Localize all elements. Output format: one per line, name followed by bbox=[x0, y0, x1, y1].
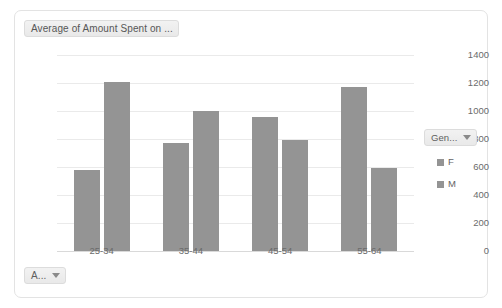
x-axis-tick-label: 25-34 bbox=[57, 245, 146, 256]
legend-field-button[interactable]: Gen... bbox=[424, 129, 477, 146]
x-axis-tick-label: 55-64 bbox=[325, 245, 414, 256]
bar-45-54-F[interactable] bbox=[252, 117, 278, 251]
legend-field-label: Gen... bbox=[431, 132, 457, 144]
value-field-button[interactable]: Average of Amount Spent on ... bbox=[24, 20, 179, 37]
bar-55-64-M[interactable] bbox=[371, 168, 397, 251]
plot-area: 020040060080010001200140025-3435-4445-54… bbox=[15, 11, 489, 299]
y-axis-tick-label: 200 bbox=[457, 218, 489, 228]
bar-45-54-M[interactable] bbox=[282, 140, 308, 251]
axis-field-button[interactable]: A... bbox=[24, 267, 66, 284]
legend-item-M[interactable]: M bbox=[437, 179, 456, 189]
axis-field-label: A... bbox=[31, 270, 46, 282]
y-axis-tick-label: 1000 bbox=[457, 106, 489, 116]
legend-swatch-icon bbox=[437, 159, 444, 166]
y-axis-tick-label: 600 bbox=[457, 162, 489, 172]
x-axis-tick-label: 45-54 bbox=[236, 245, 325, 256]
legend-label: F bbox=[448, 157, 454, 167]
gridline bbox=[57, 55, 414, 56]
y-axis-tick-label: 400 bbox=[457, 190, 489, 200]
bar-35-44-M[interactable] bbox=[193, 111, 219, 251]
pivot-chart-frame: 020040060080010001200140025-3435-4445-54… bbox=[14, 10, 488, 298]
bar-25-34-M[interactable] bbox=[104, 82, 130, 251]
y-axis-tick-label: 1400 bbox=[457, 50, 489, 60]
chevron-down-icon bbox=[463, 135, 471, 140]
x-axis-tick-label: 35-44 bbox=[146, 245, 235, 256]
bar-35-44-F[interactable] bbox=[163, 143, 189, 252]
legend-label: M bbox=[448, 179, 456, 189]
chart-title: Average of Amount Spent on ... bbox=[31, 23, 173, 35]
y-axis-tick-label: 1200 bbox=[457, 78, 489, 88]
legend-swatch-icon bbox=[437, 181, 444, 188]
legend-item-F[interactable]: F bbox=[437, 157, 454, 167]
bar-55-64-F[interactable] bbox=[341, 87, 367, 251]
bar-25-34-F[interactable] bbox=[74, 170, 100, 251]
y-axis-tick-label: 0 bbox=[457, 246, 489, 256]
chevron-down-icon bbox=[52, 273, 60, 278]
